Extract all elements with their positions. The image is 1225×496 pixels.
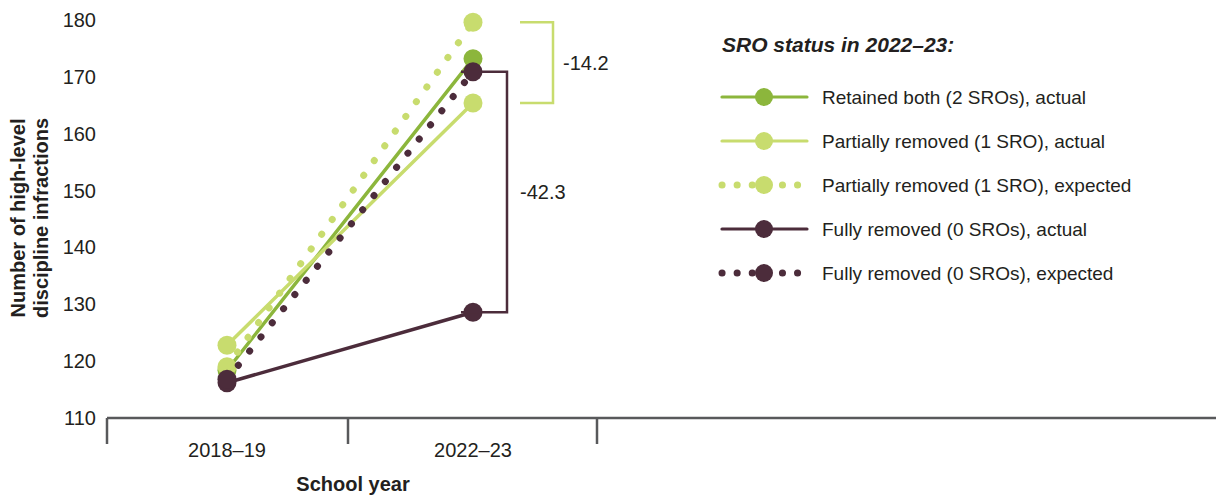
y-tick-label-140: 140 [63, 236, 96, 258]
legend-item-3[interactable]: Fully removed (0 SROs), actual [722, 219, 1087, 240]
x-tick-label-0: 2018–19 [188, 439, 266, 461]
y-tick-label-110: 110 [64, 407, 96, 429]
series-line [227, 22, 473, 367]
legend-swatch-marker [755, 176, 773, 194]
y-tick-label-150: 150 [63, 180, 96, 202]
annotation-0: -14.2 [520, 22, 609, 103]
series-0 [218, 49, 483, 380]
y-tick-label-120: 120 [63, 350, 96, 372]
data-point-1 [464, 13, 483, 32]
data-point-1 [464, 94, 483, 113]
annotation-label: -14.2 [563, 52, 609, 74]
series-line [227, 72, 473, 380]
legend: SRO status in 2022–23: Retained both (2 … [722, 33, 1131, 284]
legend-item-1[interactable]: Partially removed (1 SRO), actual [722, 131, 1105, 152]
y-axis-title-line1: Number of high-level [7, 119, 29, 318]
legend-title: SRO status in 2022–23: [722, 33, 954, 56]
legend-swatch-marker [755, 264, 773, 282]
series-4 [218, 62, 483, 389]
data-point-0 [218, 370, 237, 389]
annotation-brackets: -14.2-42.3 [461, 22, 609, 312]
legend-swatch-marker [755, 88, 773, 106]
chart-figure: Number of high-level discipline infracti… [0, 0, 1225, 496]
legend-item-label: Partially removed (1 SRO), actual [822, 131, 1105, 152]
axis-lines [107, 418, 1216, 444]
y-tick-labels: 180170160150140130120110 [63, 9, 96, 429]
annotation-label: -42.3 [520, 181, 566, 203]
y-axis-title: Number of high-level discipline infracti… [7, 118, 52, 318]
legend-item-2[interactable]: Partially removed (1 SRO), expected [722, 175, 1131, 196]
x-axis-title: School year [296, 473, 410, 495]
legend-item-4[interactable]: Fully removed (0 SROs), expected [722, 263, 1113, 284]
line-chart: Number of high-level discipline infracti… [0, 0, 1225, 496]
legend-item-label: Fully removed (0 SROs), actual [822, 219, 1087, 240]
legend-swatch-marker [755, 132, 773, 150]
y-axis-title-line2: discipline infractions [30, 118, 52, 318]
y-tick-label-170: 170 [63, 66, 96, 88]
legend-swatch-marker [755, 220, 773, 238]
data-series [218, 13, 483, 392]
legend-item-label: Partially removed (1 SRO), expected [822, 175, 1131, 196]
x-tick-label-1: 2022–23 [434, 439, 512, 461]
legend-item-label: Fully removed (0 SROs), expected [822, 263, 1113, 284]
y-tick-label-180: 180 [63, 9, 96, 31]
y-tick-label-160: 160 [63, 123, 96, 145]
data-point-0 [218, 336, 237, 355]
legend-item-label: Retained both (2 SROs), actual [822, 87, 1086, 108]
legend-item-0[interactable]: Retained both (2 SROs), actual [722, 87, 1086, 108]
y-tick-label-130: 130 [63, 293, 96, 315]
bracket [520, 22, 553, 103]
